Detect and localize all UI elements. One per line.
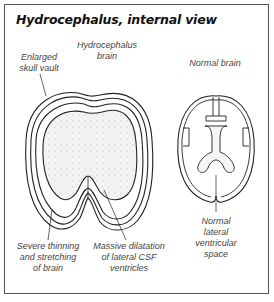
hydrocephalus-brain-icon bbox=[26, 74, 153, 240]
normal-brain-icon bbox=[178, 96, 254, 212]
brain-illustrations bbox=[0, 0, 274, 302]
